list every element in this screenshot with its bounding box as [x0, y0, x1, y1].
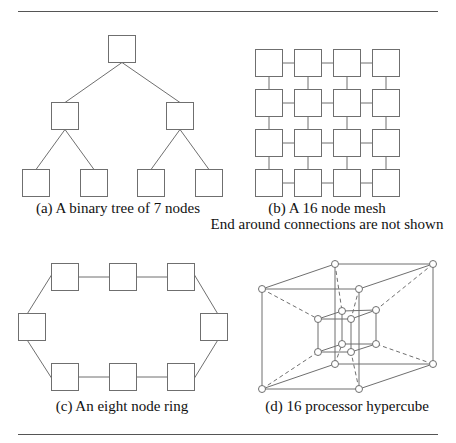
- mesh-node-1-3: [373, 90, 400, 117]
- ring-diagram: [19, 264, 228, 391]
- processor-node: [315, 316, 322, 323]
- outer-cube-edge: [262, 364, 335, 389]
- processor-node: [332, 361, 339, 368]
- binary-tree-diagram: [23, 36, 223, 197]
- ring-node-rs: [201, 314, 228, 341]
- processor-node: [339, 341, 346, 348]
- mesh-node-3-0: [256, 170, 283, 197]
- hypercube-diagram: [259, 261, 437, 393]
- mesh-node-1-0: [256, 90, 283, 117]
- processor-node: [348, 349, 355, 356]
- ring-edge: [27, 275, 51, 314]
- processor-node: [315, 349, 322, 356]
- ring-edge: [195, 341, 218, 379]
- tree-edge: [151, 130, 180, 170]
- ring-node-b1: [52, 364, 79, 391]
- mesh-node-0-0: [256, 50, 283, 77]
- tree-node-l: [52, 103, 79, 130]
- tree-edge: [122, 63, 180, 103]
- mesh-diagram: [256, 50, 400, 197]
- processor-node: [430, 361, 437, 368]
- mesh-node-1-1: [295, 90, 322, 117]
- processor-node: [356, 386, 363, 393]
- outer-cube-edge: [262, 264, 335, 289]
- tree-node-r: [167, 103, 194, 130]
- ring-node-t2: [110, 264, 137, 291]
- outer-cube-edge: [359, 264, 433, 289]
- hypercube-link: [351, 289, 359, 319]
- tree-node-rr: [196, 170, 223, 197]
- tree-node-rl: [138, 170, 165, 197]
- tree-edge: [36, 130, 65, 170]
- hypercube-link: [262, 352, 318, 389]
- processor-node: [356, 286, 363, 293]
- processor-node: [373, 341, 380, 348]
- hypercube-link: [351, 352, 359, 389]
- ring-node-t3: [168, 264, 195, 291]
- mesh-node-0-1: [295, 50, 322, 77]
- hypercube-link: [376, 344, 433, 364]
- ring-edge: [27, 341, 51, 379]
- tree-node-root: [109, 36, 136, 63]
- mesh-node-3-2: [334, 170, 361, 197]
- processor-node: [339, 308, 346, 315]
- mesh-node-3-3: [373, 170, 400, 197]
- mesh-node-2-0: [256, 130, 283, 157]
- ring-node-ls: [19, 314, 46, 341]
- caption-mesh: (b) A 16 node mesh: [268, 200, 386, 216]
- ring-node-t1: [52, 264, 79, 291]
- caption-mesh-note: End around connections are not shown: [211, 216, 444, 232]
- ring-edge: [195, 275, 218, 314]
- hypercube-link: [376, 264, 433, 310]
- caption-hypercube: (d) 16 processor hypercube: [265, 398, 429, 414]
- mesh-node-2-1: [295, 130, 322, 157]
- mesh-node-2-3: [373, 130, 400, 157]
- mesh-node-2-2: [334, 130, 361, 157]
- mesh-node-0-2: [334, 50, 361, 77]
- outer-cube-edge: [359, 364, 433, 389]
- processor-node: [348, 316, 355, 323]
- tree-edge: [65, 130, 94, 170]
- mesh-node-1-2: [334, 90, 361, 117]
- caption-binary-tree: (a) A binary tree of 7 nodes: [36, 200, 200, 216]
- processor-node: [332, 261, 339, 268]
- processor-node: [430, 261, 437, 268]
- mesh-node-3-1: [295, 170, 322, 197]
- hypercube-link: [335, 264, 342, 311]
- ring-node-b3: [168, 364, 195, 391]
- processor-node: [259, 286, 266, 293]
- ring-node-b2: [110, 364, 137, 391]
- hypercube-link: [262, 289, 318, 319]
- tree-edge: [180, 130, 209, 170]
- processor-node: [373, 307, 380, 314]
- mesh-node-0-3: [373, 50, 400, 77]
- tree-node-lr: [81, 170, 108, 197]
- tree-edge: [65, 63, 122, 103]
- processor-node: [259, 386, 266, 393]
- caption-ring: (c) An eight node ring: [56, 398, 188, 414]
- inner-cube-edge: [342, 310, 376, 311]
- tree-node-ll: [23, 170, 50, 197]
